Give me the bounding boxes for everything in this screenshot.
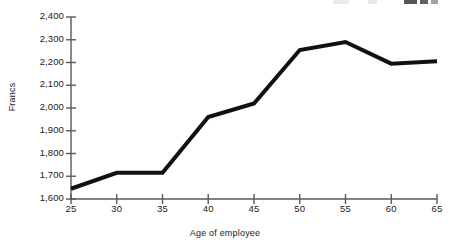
line-chart-figure: Francs 1,6001,7001,8001,9002,0002,1002,2… <box>0 0 450 252</box>
data-series-line <box>71 42 437 189</box>
x-axis-title: Age of employee <box>0 228 450 238</box>
plot-area <box>0 0 450 252</box>
